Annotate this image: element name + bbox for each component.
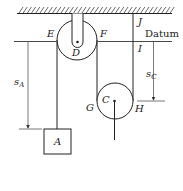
- label-e: E: [46, 28, 55, 39]
- label-sc-sub: C: [151, 73, 157, 81]
- hatch-mark: [86, 7, 90, 13]
- label-d: D: [71, 47, 80, 58]
- ceiling-hatching: [19, 7, 174, 13]
- hatch-mark: [132, 7, 136, 13]
- hatch-mark: [116, 7, 120, 13]
- hatch-mark: [69, 7, 73, 13]
- hatch-mark: [53, 7, 57, 13]
- label-datum: Datum: [145, 28, 179, 39]
- pulley-diagram: E F D J I Datum C G H A sA sC: [0, 0, 183, 191]
- hatch-mark: [111, 7, 115, 13]
- hatch-mark: [99, 7, 103, 13]
- label-sa: sA: [14, 76, 24, 89]
- hatch-mark: [141, 7, 145, 13]
- pulley-c: [97, 83, 133, 140]
- hatch-mark: [44, 7, 48, 13]
- hatch-mark: [48, 7, 52, 13]
- hatch-mark: [90, 7, 94, 13]
- hatch-mark: [32, 7, 36, 13]
- hatch-mark: [78, 7, 82, 13]
- hatch-mark: [153, 7, 157, 13]
- hatch-mark: [19, 7, 23, 13]
- hatch-mark: [82, 7, 86, 13]
- hatch-mark: [170, 7, 174, 13]
- hatch-mark: [74, 7, 78, 13]
- hatch-mark: [166, 7, 170, 13]
- hatch-mark: [145, 7, 149, 13]
- hatch-mark: [61, 7, 65, 13]
- label-sa-sub: A: [18, 81, 24, 89]
- label-a: A: [53, 136, 61, 147]
- hatch-mark: [103, 7, 107, 13]
- hatch-mark: [65, 7, 69, 13]
- hatch-mark: [128, 7, 132, 13]
- label-h: H: [134, 103, 144, 114]
- label-g: G: [86, 102, 94, 113]
- label-f: F: [99, 28, 108, 39]
- hatch-mark: [158, 7, 162, 13]
- hatch-mark: [40, 7, 44, 13]
- hatch-mark: [162, 7, 166, 13]
- label-i: I: [137, 43, 143, 54]
- hatch-mark: [27, 7, 31, 13]
- hatch-mark: [95, 7, 99, 13]
- pulley-d-axle: [76, 41, 79, 44]
- hatch-mark: [107, 7, 111, 13]
- hatch-mark: [137, 7, 141, 13]
- hatch-mark: [124, 7, 128, 13]
- hatch-mark: [23, 7, 27, 13]
- hatch-mark: [120, 7, 124, 13]
- ceiling: [17, 7, 174, 14]
- label-c: C: [102, 94, 110, 105]
- hatch-mark: [57, 7, 61, 13]
- hatch-mark: [36, 7, 40, 13]
- hatch-mark: [149, 7, 153, 13]
- label-sc: sC: [146, 68, 157, 81]
- label-j: J: [136, 16, 143, 27]
